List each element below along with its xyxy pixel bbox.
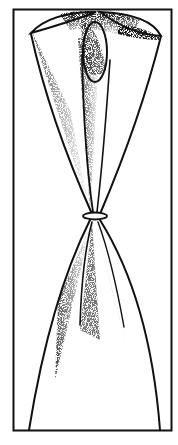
curtain-illustration (0, 0, 178, 445)
tie-back-knot (83, 213, 107, 220)
illustration-canvas (0, 0, 178, 445)
